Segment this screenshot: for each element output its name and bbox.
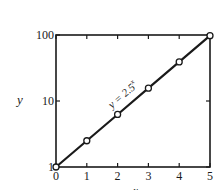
- y-axis-label: y: [15, 92, 23, 107]
- x-axis-label: x: [132, 184, 138, 190]
- y-tick-label: 100: [36, 28, 54, 42]
- x-tick-label: 3: [145, 169, 151, 183]
- data-point-marker: [176, 59, 182, 65]
- y-tick-label: 10: [42, 94, 54, 108]
- data-point-marker: [207, 33, 213, 39]
- chart: 012345 110100 y x y = 2.5x: [0, 0, 221, 190]
- data-point-marker: [84, 138, 90, 144]
- series-line: [56, 36, 210, 167]
- x-tick-labels: 012345: [53, 169, 213, 183]
- x-tick-label: 5: [207, 169, 213, 183]
- x-tick-label: 1: [84, 169, 90, 183]
- equation-annotation: y = 2.5x: [104, 77, 140, 111]
- x-tick-label: 4: [176, 169, 182, 183]
- data-point-marker: [53, 164, 59, 170]
- data-point-marker: [115, 111, 121, 117]
- x-tick-label: 2: [115, 169, 121, 183]
- y-tick-labels: 110100: [36, 28, 54, 174]
- data-point-marker: [145, 85, 151, 91]
